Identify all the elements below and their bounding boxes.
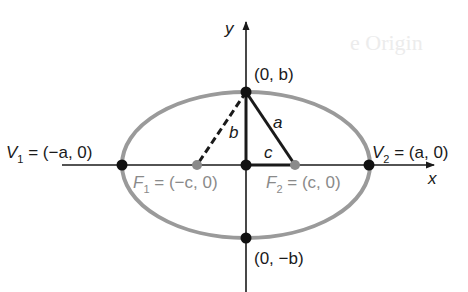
origin-point — [241, 160, 252, 171]
label-f2: F2 = (c, 0) — [266, 173, 341, 195]
label-v1: V1 = (−a, 0) — [6, 143, 92, 165]
label-bottom-point: (0, −b) — [254, 249, 304, 268]
label-v2: V2 = (a, 0) — [372, 143, 449, 165]
x-axis-label: x — [427, 169, 437, 188]
point-bottom — [241, 233, 252, 244]
point-top — [241, 87, 252, 98]
y-axis-label: y — [224, 19, 235, 38]
background-ghost-text: e Origin — [350, 30, 423, 55]
vertex-v1 — [117, 160, 128, 171]
ellipse-diagram: e Origin y x (0, b) (0, −b) V1 = (−a, 0)… — [0, 0, 468, 292]
focus-f1 — [192, 160, 202, 170]
focus-f2 — [290, 160, 300, 170]
label-top-point: (0, b) — [254, 65, 294, 84]
segment-dashed-to-f1 — [197, 92, 246, 165]
label-c: c — [264, 143, 273, 162]
label-a: a — [273, 113, 282, 132]
label-f1: F1 = (−c, 0) — [133, 173, 218, 195]
label-b: b — [229, 123, 238, 142]
